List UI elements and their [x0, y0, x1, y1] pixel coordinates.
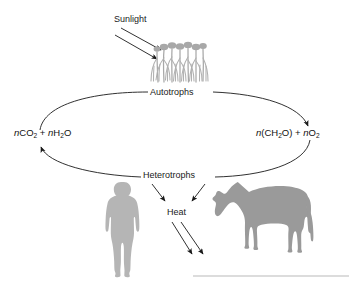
label-autotrophs: Autotrophs: [148, 88, 196, 97]
plants-illustration: [151, 42, 208, 82]
label-heterotrophs: Heterotrophs: [141, 171, 197, 180]
heterotrophs-to-heat-arrows: [152, 184, 205, 201]
formula-reactants: nCO2 + nH2O: [14, 128, 71, 138]
label-sunlight: Sunlight: [114, 15, 147, 24]
figure-canvas: [0, 0, 349, 287]
carbon-cycle-figure: Sunlight Autotrophs Heterotrophs Heat nC…: [0, 0, 349, 287]
formula-products: n(CH2O) + nO2: [256, 128, 320, 138]
cow-silhouette: [213, 182, 314, 253]
human-silhouette: [105, 182, 139, 277]
cycle-top-arc: [40, 92, 308, 130]
sunlight-arrows: [115, 28, 161, 59]
label-heat: Heat: [165, 208, 188, 217]
heat-outgoing-arrows: [172, 222, 203, 254]
